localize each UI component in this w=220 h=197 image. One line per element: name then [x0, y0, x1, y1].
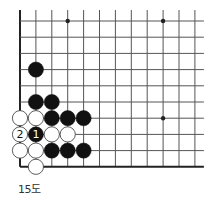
black-stone	[28, 62, 43, 77]
move-number-label: 1	[32, 128, 39, 141]
black-stone	[76, 111, 91, 126]
white-stone	[12, 143, 27, 158]
white-stone: 2	[12, 127, 27, 142]
diagram-caption: 15도	[18, 180, 41, 196]
star-point-icon	[161, 116, 165, 120]
white-stone	[28, 111, 43, 126]
white-stone	[44, 127, 59, 142]
black-stone	[44, 143, 59, 158]
black-stone	[60, 143, 75, 158]
black-stone	[76, 143, 91, 158]
black-stone	[28, 94, 43, 109]
black-stone: 1	[28, 127, 43, 142]
black-stone	[44, 111, 59, 126]
grid-lines	[20, 10, 204, 167]
black-stone	[44, 94, 59, 109]
star-point-icon	[161, 19, 165, 23]
white-stone	[12, 111, 27, 126]
star-point-icon	[66, 19, 70, 23]
white-stone	[28, 159, 43, 174]
white-stone	[60, 127, 75, 142]
go-board: 21	[0, 0, 220, 197]
white-stone	[28, 143, 43, 158]
move-number-label: 2	[17, 128, 24, 141]
black-stone	[60, 111, 75, 126]
